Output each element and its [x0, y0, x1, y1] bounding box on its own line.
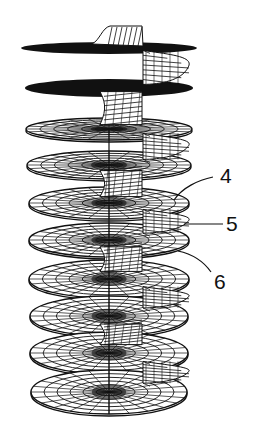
- leader-line-6: [178, 251, 211, 272]
- wireframe-drawing: [0, 0, 254, 445]
- callout-label-4: 4: [220, 165, 232, 186]
- callout-label-5: 5: [226, 213, 238, 234]
- callout-label-6: 6: [214, 271, 226, 292]
- disc-stack-diagram: 4 5 6: [0, 0, 254, 445]
